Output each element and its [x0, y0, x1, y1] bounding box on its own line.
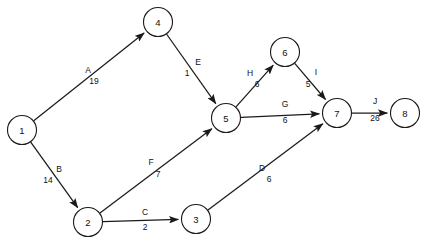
edge-a-weight: 19	[89, 76, 99, 86]
edge-c-name: C	[142, 207, 148, 217]
edge-a-name: A	[85, 65, 91, 75]
nodes-layer: 12345678	[8, 8, 420, 237]
edge-d-weight: 6	[267, 174, 272, 184]
node-5: 5	[212, 104, 241, 133]
edge-b-name: B	[56, 164, 62, 174]
node-4: 4	[144, 8, 173, 37]
network-diagram-canvas: A19B14C2D6E1F7G6H6I5J26 12345678	[0, 0, 428, 243]
edge-c-line	[103, 219, 178, 221]
node-1-label: 1	[19, 125, 24, 136]
edge-h-weight: 6	[255, 79, 260, 89]
edge-g-name: G	[282, 99, 289, 109]
edge-g-line	[241, 114, 319, 118]
edge-f-name: F	[148, 157, 153, 167]
edge-b-weight: 14	[43, 175, 53, 185]
edge-j-weight: 26	[370, 113, 380, 123]
edge-d-line	[208, 124, 323, 210]
edge-h-name: H	[247, 68, 253, 78]
edge-g-weight: 6	[283, 115, 288, 125]
node-5-label: 5	[223, 113, 228, 124]
node-8: 8	[391, 99, 420, 128]
node-2: 2	[74, 208, 103, 237]
edge-i-name: I	[315, 67, 317, 77]
node-3-label: 3	[193, 214, 198, 225]
node-3: 3	[182, 205, 211, 234]
edge-b-line	[31, 142, 78, 207]
network-diagram: A19B14C2D6E1F7G6H6I5J26 12345678	[0, 0, 428, 243]
edge-j-name: J	[373, 96, 377, 106]
node-7-label: 7	[334, 108, 339, 119]
edge-c-weight: 2	[143, 222, 148, 232]
edge-e-name: E	[195, 57, 201, 67]
node-1: 1	[8, 116, 37, 145]
edge-e-weight: 1	[185, 68, 190, 78]
node-4-label: 4	[155, 17, 160, 28]
node-7: 7	[323, 99, 352, 128]
edge-d-name: D	[259, 163, 265, 173]
edge-i-weight: 5	[306, 79, 311, 89]
node-6-label: 6	[282, 47, 287, 58]
node-6: 6	[271, 38, 300, 67]
edge-f-weight: 7	[156, 169, 161, 179]
edge-labels-layer: A19B14C2D6E1F7G6H6I5J26	[43, 57, 380, 232]
node-8-label: 8	[402, 108, 407, 119]
node-2-label: 2	[85, 217, 90, 228]
edge-e-line	[167, 34, 216, 103]
